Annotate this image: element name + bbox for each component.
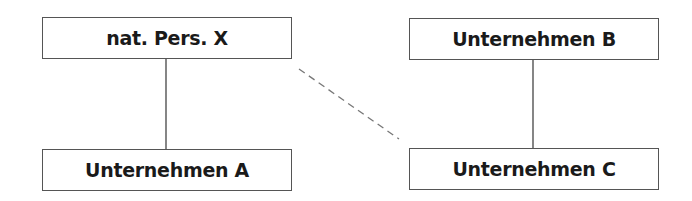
node-unternehmen-c: Unternehmen C <box>409 148 659 190</box>
node-nat-pers-x: nat. Pers. X <box>42 17 292 59</box>
node-label: Unternehmen B <box>452 28 616 50</box>
node-label: nat. Pers. X <box>106 27 228 49</box>
node-unternehmen-a: Unternehmen A <box>42 149 292 191</box>
edge-x-to-c-dashed <box>299 69 399 139</box>
node-label: Unternehmen A <box>85 159 249 181</box>
node-label: Unternehmen C <box>452 158 615 180</box>
node-unternehmen-b: Unternehmen B <box>409 18 659 60</box>
